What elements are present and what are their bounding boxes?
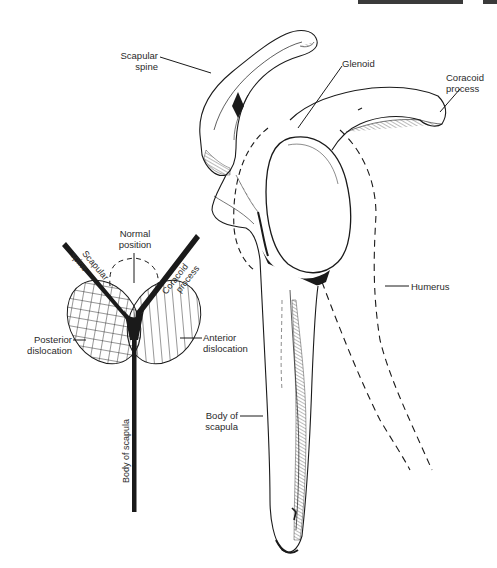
body-of-scapula-outline	[260, 260, 318, 552]
label-normal-position: Normal position	[110, 228, 160, 250]
glenoid-outline	[266, 137, 351, 273]
label-line-2: dislocation	[203, 343, 248, 354]
body-of-scapula-stem	[132, 330, 137, 512]
label-coracoid-process: Coracoid process	[446, 72, 484, 94]
label-line-2: position	[110, 239, 160, 250]
label-line-1: Anterior	[203, 332, 248, 343]
label-scapular-spine: Scapular spine	[112, 50, 158, 72]
label-line-1: Coracoid	[446, 72, 484, 83]
label-line-2: spine	[112, 61, 158, 72]
label-glenoid: Glenoid	[342, 58, 375, 69]
label-line-1: Scapular	[112, 50, 158, 61]
label-posterior-dislocation: Posterior dislocation	[18, 334, 72, 356]
label-body-of-scapula: Body of scapula	[193, 410, 238, 432]
label-line-2: scapula	[193, 421, 238, 432]
scapula-drawing	[200, 31, 446, 553]
label-body-of-scapula-stem: Body of scapula	[121, 419, 131, 483]
label-anterior-dislocation: Anterior dislocation	[203, 332, 248, 354]
label-line-1: Posterior	[18, 334, 72, 345]
label-line-2: process	[446, 83, 484, 94]
label-humerus: Humerus	[411, 281, 450, 292]
label-line-2: dislocation	[18, 345, 72, 356]
label-line-1: Normal	[110, 228, 160, 239]
leader-scapular-spine	[160, 57, 211, 73]
label-line-1: Body of	[193, 410, 238, 421]
spine-base	[212, 175, 260, 260]
humerus-dashed-outline	[234, 128, 268, 270]
